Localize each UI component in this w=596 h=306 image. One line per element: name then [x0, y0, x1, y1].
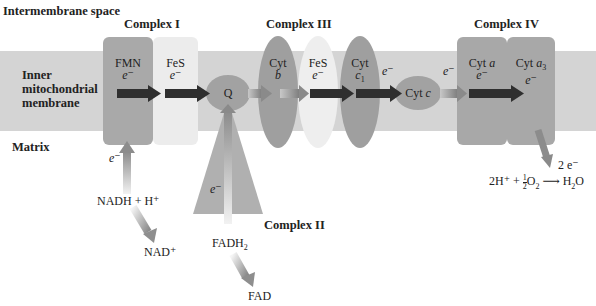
- cyt-a-label: Cyt a e⁻: [457, 57, 507, 81]
- fes-iii-label: FeS e⁻: [298, 57, 338, 81]
- complex-iv-label: Complex IV: [474, 17, 539, 32]
- electron-nadh: e⁻: [109, 151, 121, 166]
- membrane-label-line1: Inner: [22, 68, 98, 82]
- cyt-text: Cyt: [516, 56, 536, 70]
- complex-i-label: Complex I: [124, 17, 180, 32]
- subscript: 3: [542, 63, 546, 72]
- complex-ii-label: Complex II: [264, 218, 325, 233]
- fadh-text: FADH: [212, 236, 244, 250]
- membrane-label-line2: mitochondrial: [22, 82, 98, 96]
- cyt-text: Cyt: [405, 86, 425, 100]
- cyt-c-letter: c: [426, 86, 431, 100]
- electron-symbol: e⁻: [298, 69, 338, 81]
- cyt-b-label: Cyt b: [258, 57, 298, 81]
- membrane-label-line3: membrane: [22, 96, 98, 110]
- cyt-a-letter: a: [489, 56, 495, 70]
- fadh2-label: FADH2: [212, 236, 248, 252]
- intermembrane-space-label: Intermembrane space: [3, 4, 120, 19]
- nad-label: NAD⁺: [144, 245, 176, 260]
- nadh-up-arrow-shaft: [123, 152, 131, 194]
- electron-symbol: e⁻: [103, 69, 153, 81]
- matrix-label: Matrix: [12, 140, 49, 155]
- cyt-c-label: Cyt c: [395, 86, 441, 101]
- complex-iii-label: Complex III: [266, 17, 332, 32]
- electron-symbol: e⁻: [457, 69, 507, 81]
- cyt-a3-label: Cyt a3 e⁻: [507, 57, 555, 86]
- electron-c1-c: e⁻: [382, 64, 394, 79]
- oxygen: O: [575, 174, 584, 188]
- fmn-label: FMN e⁻: [103, 57, 153, 81]
- two-electrons-label: 2 e⁻: [558, 158, 579, 173]
- fes-i-label: FeS e⁻: [153, 57, 198, 81]
- electron-symbol: e⁻: [153, 69, 198, 81]
- fadh2-up-arrow-shaft: [224, 112, 232, 224]
- cyt-c1-label: Cyt c1: [340, 57, 380, 86]
- subscript: 1: [361, 75, 365, 84]
- subscript: 2: [244, 243, 248, 252]
- electron-fadh2: e⁻: [210, 182, 222, 197]
- diagram-graphics: [0, 0, 596, 306]
- cyt-b-letter: b: [258, 69, 298, 81]
- q-label: Q: [215, 86, 241, 101]
- fad-label: FAD: [248, 289, 271, 304]
- reaction-arrow: ⟶: [539, 174, 562, 188]
- nadh-label: NADH + H⁺: [97, 194, 159, 209]
- electron-symbol: e⁻: [507, 74, 555, 86]
- equation-left: 2H⁺ +: [489, 174, 523, 188]
- electron-c-a: e⁻: [443, 64, 455, 79]
- inner-membrane-label: Inner mitochondrial membrane: [22, 68, 98, 110]
- oxygen-reduction-equation: 2H⁺ + 12O2 ⟶ H2O: [489, 174, 584, 191]
